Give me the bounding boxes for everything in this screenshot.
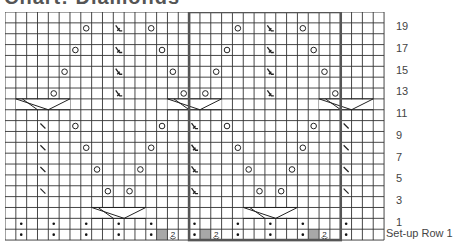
yarn-over-icon <box>224 123 230 129</box>
no-stitch-cell <box>157 229 168 240</box>
purl-dot-icon <box>85 233 88 236</box>
row-label: 15 <box>396 64 408 76</box>
purl-dot-icon <box>193 222 196 225</box>
yarn-over-icon <box>94 167 100 173</box>
row-label: 17 <box>396 42 408 54</box>
purl-dot-icon <box>150 222 153 225</box>
yarn-over-icon <box>235 25 241 31</box>
double-decrease-icon <box>116 69 123 75</box>
double-decrease-icon <box>267 90 274 96</box>
yarn-over-icon <box>105 188 111 194</box>
purl-dot-icon <box>20 222 23 225</box>
yarn-over-icon <box>73 47 79 53</box>
yarn-over-icon <box>148 25 154 31</box>
double-decrease-icon <box>116 90 123 96</box>
double-decrease-icon <box>116 25 123 31</box>
purl-dot-icon <box>20 233 23 236</box>
purl-dot-icon <box>52 233 55 236</box>
purl-dot-icon <box>85 222 88 225</box>
purl-dot-icon <box>237 222 240 225</box>
double-decrease-icon <box>192 188 199 194</box>
yarn-over-icon <box>311 123 317 129</box>
double-decrease-icon <box>116 47 123 53</box>
yarn-over-icon <box>148 145 154 151</box>
yarn-over-icon <box>62 69 68 75</box>
double-decrease-icon <box>192 123 199 129</box>
k2tog-icon <box>40 124 45 129</box>
yarn-over-icon <box>127 188 133 194</box>
purl-dot-icon <box>193 233 196 236</box>
k2tog-icon <box>344 167 349 172</box>
row-label: 5 <box>396 172 402 184</box>
purl-dot-icon <box>117 222 120 225</box>
knitting-chart: 222 <box>5 12 385 242</box>
yarn-over-icon <box>224 47 230 53</box>
yarn-over-icon <box>300 25 306 31</box>
row-label: 7 <box>396 151 402 163</box>
make-two-icon: 2 <box>171 230 176 239</box>
yarn-over-icon <box>311 47 317 53</box>
make-two-icon: 2 <box>322 230 327 239</box>
yarn-over-icon <box>170 69 176 75</box>
yarn-over-icon <box>83 145 89 151</box>
yarn-over-icon <box>213 69 219 75</box>
yarn-over-icon <box>300 145 306 151</box>
yarn-over-icon <box>203 91 209 97</box>
row-label: 13 <box>396 85 408 97</box>
k2tog-icon <box>40 189 45 194</box>
k2tog-icon <box>40 145 45 150</box>
double-decrease-icon <box>267 69 274 75</box>
purl-dot-icon <box>302 233 305 236</box>
purl-dot-icon <box>150 233 153 236</box>
double-decrease-icon <box>267 47 274 53</box>
purl-dot-icon <box>269 233 272 236</box>
k2tog-icon <box>344 189 349 194</box>
yarn-over-icon <box>73 123 79 129</box>
row-label: 9 <box>396 129 402 141</box>
k2tog-icon <box>344 145 349 150</box>
yarn-over-icon <box>138 167 144 173</box>
yarn-over-icon <box>322 69 328 75</box>
double-decrease-icon <box>267 25 274 31</box>
purl-dot-icon <box>345 233 348 236</box>
make-two-icon: 2 <box>214 230 219 239</box>
yarn-over-icon <box>257 188 263 194</box>
row-label: 11 <box>396 107 407 119</box>
purl-dot-icon <box>52 222 55 225</box>
purl-dot-icon <box>269 222 272 225</box>
double-decrease-icon <box>192 145 199 151</box>
yarn-over-icon <box>235 145 241 151</box>
k2tog-icon <box>344 124 349 129</box>
yarn-over-icon <box>278 188 284 194</box>
yarn-over-icon <box>83 25 89 31</box>
row-label: 3 <box>396 194 402 206</box>
yarn-over-icon <box>246 167 252 173</box>
chart-title: Chart: Diamonds <box>4 0 180 9</box>
purl-dot-icon <box>117 233 120 236</box>
row-label: Set-up Row 1 <box>386 227 453 239</box>
yarn-over-icon <box>289 167 295 173</box>
purl-dot-icon <box>302 222 305 225</box>
purl-dot-icon <box>237 233 240 236</box>
no-stitch-cell <box>308 229 319 240</box>
yarn-over-icon <box>159 47 165 53</box>
no-stitch-cell <box>200 229 211 240</box>
yarn-over-icon <box>181 91 187 97</box>
purl-dot-icon <box>345 222 348 225</box>
row-label: 19 <box>396 20 408 32</box>
double-decrease-icon <box>192 166 199 172</box>
k2tog-icon <box>40 167 45 172</box>
yarn-over-icon <box>333 91 339 97</box>
yarn-over-icon <box>159 123 165 129</box>
yarn-over-icon <box>51 91 57 97</box>
